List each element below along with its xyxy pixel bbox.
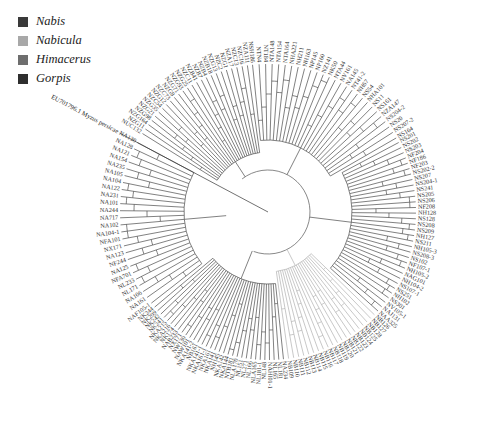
branch-arc (357, 278, 360, 281)
branch (294, 266, 321, 322)
branch-arc (201, 300, 204, 302)
branch (259, 284, 262, 318)
branch (252, 283, 257, 319)
branch (197, 82, 215, 115)
branch-arc (298, 317, 302, 318)
branch-arc (249, 318, 252, 319)
branch (402, 218, 416, 219)
branch (145, 254, 195, 283)
branch (409, 224, 415, 225)
branch-arc (136, 264, 139, 270)
branch (351, 222, 403, 228)
branch-arc (386, 190, 387, 195)
branch-arc (234, 119, 237, 120)
branch-arc (183, 272, 186, 276)
branch (308, 77, 330, 124)
branch-arc (182, 304, 185, 307)
branch-arc (328, 106, 333, 109)
branch-arc (213, 100, 217, 102)
branch-arc (194, 132, 197, 135)
branch (276, 80, 283, 141)
branch (121, 231, 127, 232)
branch (262, 107, 264, 140)
branch (126, 204, 184, 207)
branch (382, 259, 405, 268)
branch-arc (139, 160, 141, 166)
branch (327, 155, 350, 171)
branch-arc (373, 161, 375, 165)
branch (253, 65, 259, 121)
branch (319, 308, 337, 342)
branch (283, 65, 285, 80)
branch (350, 229, 387, 236)
branch (343, 250, 380, 268)
branch (339, 291, 367, 322)
branch (319, 132, 347, 160)
branch (363, 298, 378, 311)
branch (401, 261, 407, 263)
branch-arc (396, 183, 397, 188)
branch (285, 309, 294, 358)
branch (376, 207, 416, 208)
branch (398, 254, 408, 257)
branch-arc (186, 139, 189, 142)
branch-arc (194, 112, 198, 115)
branch (276, 317, 279, 360)
branch (321, 75, 323, 81)
branch (234, 120, 247, 156)
branch-arc (240, 115, 244, 116)
branch (128, 254, 144, 259)
branch (171, 307, 185, 324)
branch (265, 284, 266, 332)
branch (321, 322, 332, 345)
branch (251, 330, 254, 359)
branch (247, 65, 255, 124)
branch-arc (387, 160, 389, 165)
branch (292, 86, 313, 144)
branch (266, 94, 267, 140)
branch (385, 289, 392, 293)
branch-arc (336, 310, 339, 312)
branch (175, 138, 221, 175)
branch (234, 282, 251, 350)
branch-arc (400, 193, 401, 198)
leaf-label: NA244 (100, 206, 118, 213)
branch-arc (340, 98, 345, 101)
branch-arc (127, 231, 128, 238)
branch (400, 158, 406, 160)
branch (360, 278, 389, 298)
branch (294, 334, 299, 356)
branch (133, 198, 185, 203)
branch (194, 115, 231, 164)
branch-arc (341, 303, 344, 306)
branch (340, 87, 347, 98)
branch (164, 303, 178, 317)
branch-arc (400, 160, 402, 165)
branch-arc (191, 157, 193, 160)
branch (408, 235, 414, 236)
branch-arc (242, 170, 310, 254)
branch (273, 92, 276, 140)
branch (120, 217, 147, 218)
branch (124, 242, 139, 245)
branch-arc (149, 170, 151, 176)
branch-arc (181, 285, 183, 288)
branch (150, 250, 193, 272)
branch-arc (380, 259, 382, 263)
branch-arc (209, 307, 212, 309)
branch (270, 81, 272, 140)
branch-arc (169, 275, 172, 280)
branch-arc (319, 335, 323, 337)
branch (240, 102, 253, 153)
branch-arc (351, 103, 356, 107)
branch-arc (318, 322, 322, 324)
branch (333, 279, 371, 319)
branch (216, 73, 234, 120)
branch-arc (336, 291, 339, 293)
branch-arc (243, 330, 247, 331)
branch (130, 255, 158, 266)
branch (211, 75, 220, 96)
branch-arc (398, 244, 399, 249)
branch (283, 322, 288, 359)
branch (140, 282, 145, 285)
